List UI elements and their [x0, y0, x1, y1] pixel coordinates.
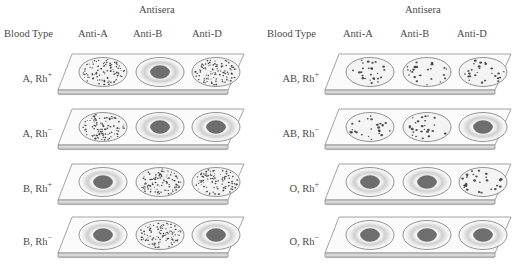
column-header-anti-b: Anti-B — [400, 28, 429, 39]
well-anti-a-positive — [79, 58, 127, 87]
row-label-b-rhneg: B, Rh− — [8, 233, 52, 247]
well-anti-d-positive — [459, 58, 507, 87]
column-header-blood-type: Blood Type — [267, 28, 316, 39]
well-anti-b-negative — [136, 58, 184, 87]
row-label-ab-rhneg: AB, Rh− — [271, 125, 319, 139]
blood-typing-slide — [56, 107, 246, 159]
well-anti-a-positive — [346, 58, 394, 87]
row-label-b-rhpos: B, Rh+ — [8, 180, 52, 194]
antisera-group-header: Antisera — [405, 4, 441, 15]
row-label-ab-rhpos: AB, Rh+ — [271, 70, 319, 84]
well-anti-d-negative — [192, 221, 240, 250]
well-anti-b-positive — [403, 113, 451, 142]
well-anti-a-negative — [346, 221, 394, 250]
well-anti-d-positive — [192, 168, 240, 197]
row-label-a-rhneg: A, Rh− — [8, 125, 52, 139]
blood-typing-slide — [56, 52, 246, 104]
well-anti-d-negative — [192, 113, 240, 142]
row-label-o-rhneg: O, Rh− — [271, 233, 319, 247]
well-anti-b-positive — [136, 221, 184, 250]
well-anti-a-negative — [346, 168, 394, 197]
blood-typing-slide — [323, 162, 513, 214]
well-anti-b-negative — [136, 113, 184, 142]
well-anti-d-negative — [459, 113, 507, 142]
well-anti-b-negative — [403, 221, 451, 250]
column-header-anti-b: Anti-B — [133, 28, 162, 39]
column-header-anti-d: Anti-D — [457, 28, 487, 39]
well-anti-d-negative — [459, 221, 507, 250]
well-anti-a-negative — [79, 221, 127, 250]
well-anti-b-positive — [136, 168, 184, 197]
well-anti-d-positive — [459, 168, 507, 197]
well-anti-a-positive — [79, 113, 127, 142]
column-header-anti-a: Anti-A — [343, 28, 373, 39]
antisera-group-header: Antisera — [139, 4, 175, 15]
blood-typing-panel-left: AntiseraBlood TypeAnti-AAnti-BAnti-DA, R… — [0, 0, 261, 279]
blood-typing-slide — [323, 52, 513, 104]
well-anti-b-positive — [403, 58, 451, 87]
well-anti-a-negative — [79, 168, 127, 197]
blood-typing-slide — [323, 107, 513, 159]
blood-typing-slide — [56, 215, 246, 267]
well-anti-d-positive — [192, 58, 240, 87]
row-label-o-rhpos: O, Rh+ — [271, 180, 319, 194]
well-anti-a-positive — [346, 113, 394, 142]
blood-typing-slide — [56, 162, 246, 214]
column-header-anti-a: Anti-A — [78, 28, 108, 39]
column-header-anti-d: Anti-D — [192, 28, 222, 39]
row-label-a-rhpos: A, Rh+ — [8, 70, 52, 84]
blood-typing-slide — [323, 215, 513, 267]
column-header-blood-type: Blood Type — [4, 28, 53, 39]
blood-typing-panel-right: AntiseraBlood TypeAnti-AAnti-BAnti-DAB, … — [261, 0, 522, 279]
well-anti-b-negative — [403, 168, 451, 197]
